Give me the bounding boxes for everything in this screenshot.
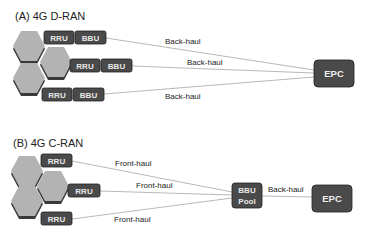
bbu-pool-node: BBU Pool xyxy=(232,183,262,208)
rru-label: RRU xyxy=(50,34,68,43)
diagram-canvas: (A) 4G D-RAN Back-haul Back-haul Back-ha… xyxy=(0,0,367,233)
section-b-title: (B) 4G C-RAN xyxy=(13,137,83,149)
epc-node-a: EPC xyxy=(314,60,354,87)
epc-node-b: EPC xyxy=(312,185,352,212)
rru-unit-2: RRU xyxy=(68,184,100,197)
rru-bbu-unit-3: RRU BBU xyxy=(42,88,104,101)
cell-hexagon-icon xyxy=(13,63,45,96)
backhaul-label-2: Back-haul xyxy=(187,58,223,67)
pool-backhaul-link xyxy=(262,196,312,197)
fronthaul-link-3 xyxy=(72,198,232,219)
cell-hexagon-icon xyxy=(13,31,45,64)
rru-label: RRU xyxy=(48,215,66,224)
rru-label: RRU xyxy=(76,62,94,71)
bbu-label: BBU xyxy=(108,62,126,71)
fronthaul-label-1: Front-haul xyxy=(115,159,152,168)
fronthaul-link-2 xyxy=(100,191,232,195)
section-a-title: (A) 4G D-RAN xyxy=(15,10,85,22)
backhaul-label-1: Back-haul xyxy=(165,37,201,46)
fronthaul-label-3: Front-haul xyxy=(114,215,151,224)
rru-label: RRU xyxy=(75,187,93,196)
cell-hexagon-icon xyxy=(40,47,72,80)
rru-bbu-unit-2: RRU BBU xyxy=(70,59,132,72)
rru-label: RRU xyxy=(48,91,66,100)
bbu-label: BBU xyxy=(80,91,98,100)
epc-label: EPC xyxy=(324,68,344,79)
pool-backhaul-label: Back-haul xyxy=(268,185,304,194)
rru-unit-1: RRU xyxy=(41,154,72,167)
backhaul-link-2 xyxy=(132,66,314,73)
backhaul-link-3 xyxy=(104,77,314,94)
bbu-pool-label-line2: Pool xyxy=(238,197,255,206)
bbu-label: BBU xyxy=(82,34,100,43)
fronthaul-label-2: Front-haul xyxy=(136,181,173,190)
rru-unit-3: RRU xyxy=(41,212,72,225)
rru-label: RRU xyxy=(48,157,66,166)
backhaul-label-3: Back-haul xyxy=(165,92,201,101)
epc-label: EPC xyxy=(322,193,342,204)
bbu-pool-label-line1: BBU xyxy=(238,186,256,195)
rru-bbu-unit-1: RRU BBU xyxy=(44,31,106,44)
